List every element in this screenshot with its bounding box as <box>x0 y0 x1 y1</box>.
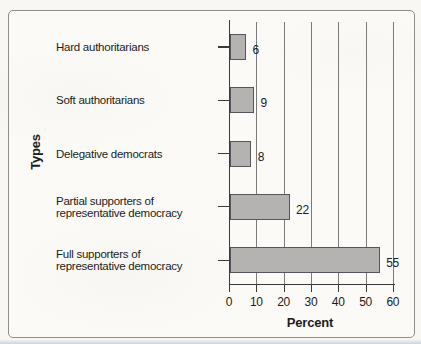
bar-value-label-4: 55 <box>386 256 399 270</box>
category-tick-0 <box>218 46 229 47</box>
x-tick-label-50: 50 <box>359 295 372 309</box>
category-tick-1 <box>218 100 229 101</box>
category-tick-2 <box>218 153 229 154</box>
bar-1 <box>230 87 255 113</box>
bar-3 <box>230 194 290 220</box>
gridline-20 <box>284 22 285 284</box>
bar-2 <box>230 141 252 167</box>
bar-4 <box>230 247 380 273</box>
gridline-50 <box>366 22 367 284</box>
bar-value-label-2: 8 <box>258 150 264 164</box>
bar-chart-figure: Types 0102030405060Hard authoritarians6S… <box>0 0 421 344</box>
bar-value-label-1: 9 <box>261 96 267 110</box>
category-tick-3 <box>218 206 229 207</box>
bar-value-label-0: 6 <box>252 43 258 57</box>
gridline-60 <box>393 22 394 284</box>
category-label-4: Full supporters of representative democr… <box>56 248 228 272</box>
bar-value-label-3: 22 <box>296 203 309 217</box>
x-axis-title: Percent <box>287 315 333 330</box>
gridline-40 <box>338 22 339 284</box>
x-tick-label-40: 40 <box>332 295 345 309</box>
y-axis-title: Types <box>28 134 43 170</box>
category-label-2: Delegative democrats <box>56 148 228 160</box>
x-tick-label-30: 30 <box>305 295 318 309</box>
x-axis-line <box>229 284 395 286</box>
bar-0 <box>230 34 246 60</box>
x-tick-label-60: 60 <box>386 295 399 309</box>
x-tick-label-20: 20 <box>277 295 290 309</box>
scan-edge-tint <box>0 339 421 344</box>
category-label-1: Soft authoritarians <box>56 94 228 106</box>
gridline-30 <box>311 22 312 284</box>
x-tick-label-0: 0 <box>226 295 232 309</box>
category-label-3: Partial supporters of representative dem… <box>56 195 228 219</box>
figure-frame <box>8 10 415 338</box>
category-tick-4 <box>218 260 229 261</box>
x-tick-label-10: 10 <box>250 295 263 309</box>
category-label-0: Hard authoritarians <box>56 41 228 53</box>
